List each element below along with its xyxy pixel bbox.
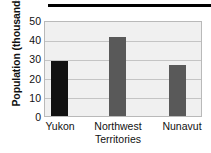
x-tick-label-yukon-line1: Yukon <box>35 120 85 133</box>
plot-area <box>44 21 202 117</box>
bar-yukon[interactable] <box>51 61 68 116</box>
y-tick-label-30: 30 <box>18 53 41 65</box>
bar-nunavut[interactable] <box>169 65 186 116</box>
y-tick-label-20: 20 <box>18 73 41 85</box>
y-tick-label-40: 40 <box>18 34 41 46</box>
bar-series <box>45 22 201 116</box>
header-rule <box>48 4 211 7</box>
x-tick-label-northwest-territories: Northwest Territories <box>92 120 144 146</box>
y-tick-label-50: 50 <box>18 15 41 27</box>
y-tick-label-10: 10 <box>18 92 41 104</box>
x-tick-label-nwt-line2: Territories <box>92 133 144 146</box>
y-axis-tick-labels: 50 40 30 20 10 0 <box>18 21 41 117</box>
x-axis-tick-labels: Yukon Northwest Territories Nunavut <box>44 120 202 153</box>
x-tick-label-nunavut-line1: Nunavut <box>153 120 211 133</box>
x-tick-label-yukon: Yukon <box>35 120 85 133</box>
x-tick-label-nwt-line1: Northwest <box>92 120 144 133</box>
bar-northwest-territories[interactable] <box>109 37 126 116</box>
x-tick-label-nunavut: Nunavut <box>153 120 211 133</box>
